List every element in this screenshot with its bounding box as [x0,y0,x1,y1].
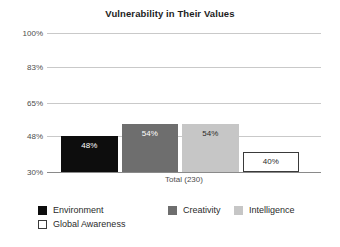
legend-swatch-icon [234,206,243,215]
y-axis-tick-label: 65% [0,98,43,107]
legend-swatch-icon [38,220,47,229]
legend-row: EnvironmentCreativityIntelligence [38,203,328,217]
legend-label: Global Awareness [53,219,125,229]
bar-value-label: 54% [183,129,238,138]
legend-item-global-awareness[interactable]: Global Awareness [38,219,125,229]
bar-value-label: 48% [62,141,117,150]
y-axis-tick-label: 48% [0,132,43,141]
bar-global-awareness[interactable]: 40% [243,152,300,172]
x-axis-label: Total (230) [47,175,321,184]
bar-creativity[interactable]: 54% [122,124,179,172]
plot-area: 48%54%54%40% [47,33,321,172]
legend-swatch-icon [168,206,177,215]
legend-label: Environment [53,205,104,215]
legend-item-creativity[interactable]: Creativity [168,205,221,215]
y-axis-tick-label: 83% [0,62,43,71]
legend-label: Creativity [183,205,221,215]
bar-chart: Vulnerability in Their Values 48%54%54%4… [0,0,340,247]
legend-item-environment[interactable]: Environment [38,205,104,215]
legend-row: Global Awareness [38,217,328,231]
bar-environment[interactable]: 48% [61,136,118,172]
gridline-30 [47,172,321,173]
chart-title: Vulnerability in Their Values [0,8,340,19]
legend-item-intelligence[interactable]: Intelligence [234,205,295,215]
legend-swatch-icon [38,206,47,215]
chart-legend: EnvironmentCreativityIntelligenceGlobal … [38,203,328,231]
bar-value-label: 54% [123,129,178,138]
bar-intelligence[interactable]: 54% [182,124,239,172]
legend-label: Intelligence [249,205,295,215]
bars-layer: 48%54%54%40% [47,33,321,172]
bar-value-label: 40% [244,157,299,166]
y-axis-tick-label: 100% [0,29,43,38]
y-axis-tick-label: 30% [0,168,43,177]
